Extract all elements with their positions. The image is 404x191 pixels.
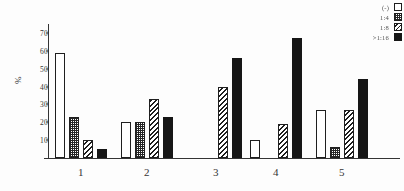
x-tick-label: 2 <box>127 166 167 178</box>
bar <box>149 99 159 158</box>
x-axis-line <box>44 158 400 159</box>
x-tick-label: 4 <box>256 166 296 178</box>
x-tick-label: 1 <box>61 166 101 178</box>
y-tick-label: 30 <box>26 100 48 109</box>
bar <box>163 117 173 158</box>
y-tick-label: 50 <box>26 64 48 73</box>
bar <box>55 53 65 158</box>
bar <box>344 110 354 158</box>
bar <box>83 140 93 158</box>
bar <box>358 79 368 158</box>
bar <box>232 58 242 158</box>
y-tick-label: 20 <box>26 118 48 127</box>
bar <box>121 122 131 158</box>
x-tick-label: 5 <box>322 166 362 178</box>
bar <box>250 140 260 158</box>
bar <box>330 147 340 158</box>
plot-area: % 10203040506070 12345 <box>0 0 404 191</box>
bar <box>316 110 326 158</box>
x-tick-label: 3 <box>196 166 236 178</box>
bar <box>69 117 79 158</box>
y-axis-line <box>48 24 49 159</box>
bar-chart: (-) 1:4 1:8 >1:16 % 10203040506070 12345 <box>0 0 404 191</box>
y-tick-label: 70 <box>26 28 48 37</box>
y-tick-label: 60 <box>26 46 48 55</box>
bar <box>292 38 302 158</box>
bar <box>97 149 107 158</box>
bar <box>135 122 145 158</box>
bar <box>278 124 288 158</box>
y-axis-ticks: 10203040506070 <box>22 0 48 191</box>
y-tick-label: 40 <box>26 82 48 91</box>
bar <box>218 87 228 158</box>
y-tick-label: 10 <box>26 136 48 145</box>
